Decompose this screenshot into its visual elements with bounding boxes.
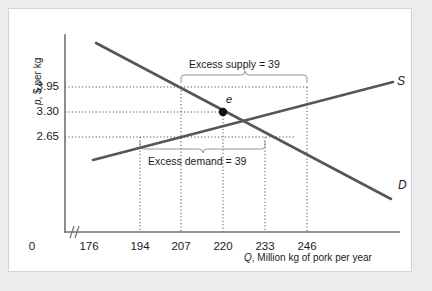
excess-supply-label: Excess supply = 39 xyxy=(189,59,280,70)
x-tick-label-233: 233 xyxy=(247,241,283,253)
supply-curve-label: S xyxy=(397,75,405,87)
x-axis-title-unit: , Million kg of pork per year xyxy=(252,252,372,263)
x-tick-label-220: 220 xyxy=(205,241,241,253)
y-tick-label-330: 3.30 xyxy=(19,106,59,118)
x-axis-title-var: Q xyxy=(244,252,252,263)
equilibrium-point-marker xyxy=(219,108,227,116)
excess-supply-bracket xyxy=(181,71,307,83)
x-tick-label-0: 0 xyxy=(17,241,47,253)
x-axis-title: Q, Million kg of pork per year xyxy=(244,253,372,263)
supply-curve xyxy=(93,82,393,160)
x-tick-label-246: 246 xyxy=(289,241,325,253)
x-tick-label-207: 207 xyxy=(163,241,199,253)
equilibrium-point-label: e xyxy=(226,94,232,105)
demand-curve-label: D xyxy=(398,179,407,191)
y-tick-label-395: 3.95 xyxy=(19,81,59,93)
figure-panel: p, $ per kg Q, Million kg of pork per ye… xyxy=(8,8,412,272)
x-tick-label-176: 176 xyxy=(71,241,107,253)
x-tick-label-194: 194 xyxy=(122,241,158,253)
excess-demand-label: Excess demand = 39 xyxy=(148,156,246,167)
y-tick-label-265: 2.65 xyxy=(19,131,59,143)
y-axis-title-unit: , $ per kg xyxy=(32,58,43,100)
supply-demand-chart xyxy=(9,9,413,273)
